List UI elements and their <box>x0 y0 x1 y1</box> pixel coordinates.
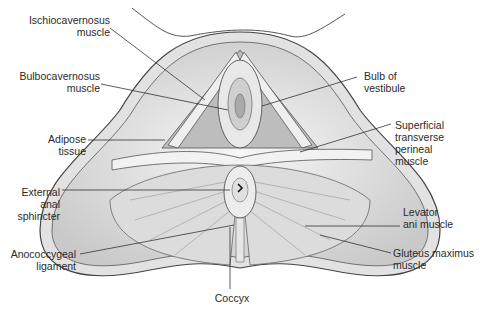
label-bulbocavernosus-muscle: Bulbocavernosus muscle <box>6 70 100 94</box>
label-levator-ani-muscle: Levator ani muscle <box>403 206 479 230</box>
label-adipose-tissue: Adipose tissue <box>6 133 86 157</box>
label-external-anal-sphincter: External anal sphincter <box>6 186 60 222</box>
label-anococcygeal-ligament: Anococcygeal ligament <box>4 248 76 272</box>
label-ischiocavernosus-muscle: Ischiocavernosus muscle <box>6 14 110 38</box>
label-coccyx: Coccyx <box>210 292 254 304</box>
label-superficial-transverse-perineal-muscle: Superficial transverse perineal muscle <box>395 119 479 167</box>
label-bulb-of-vestibule: Bulb of vestibule <box>364 70 474 94</box>
label-gluteus-maximus-muscle: Gluteus maximus muscle <box>393 247 479 271</box>
